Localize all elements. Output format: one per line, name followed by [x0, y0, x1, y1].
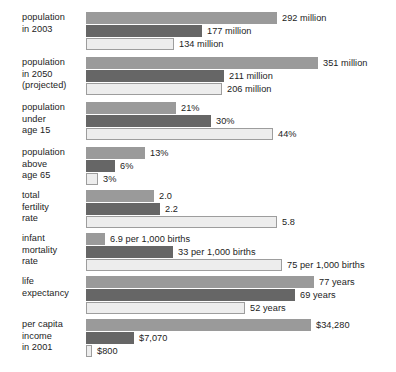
bar-group-label-line: under: [22, 114, 84, 126]
bar-group-label: lifeexpectancy: [22, 276, 84, 299]
bar: [86, 147, 145, 159]
bar-row: 211 million: [86, 70, 396, 82]
bar-group-label-line: mortality: [22, 245, 84, 257]
bar: [86, 115, 211, 127]
bar-group-label: populationin 2050(projected): [22, 57, 84, 92]
bar-value-label: 75 per 1,000 births: [287, 259, 365, 271]
bar-group-bars: 2.02.25.8: [86, 190, 396, 229]
bar-row: $34,280: [86, 319, 396, 331]
bar-group-bars: 21%30%44%: [86, 102, 396, 141]
bar-row: $7,070: [86, 332, 396, 344]
bar: [86, 57, 318, 69]
bar-group-label: totalfertilityrate: [22, 190, 84, 225]
bar-value-label: 6.9 per 1,000 births: [110, 233, 190, 245]
bar-group-label-line: infant: [22, 233, 84, 245]
bar-row: 77 years: [86, 276, 396, 288]
bar-group-label-line: income: [22, 331, 84, 343]
bar-group-label-line: population: [22, 57, 84, 69]
bar-value-label: $800: [97, 345, 118, 357]
bar: [86, 190, 154, 202]
bar: [86, 276, 314, 288]
bar-row: 292 million: [86, 12, 396, 24]
bar-group-label-line: in 2003: [22, 24, 84, 36]
bar: [86, 345, 92, 357]
bar-row: 3%: [86, 173, 396, 185]
bar-value-label: 206 million: [227, 83, 271, 95]
bar-row: 134 million: [86, 38, 396, 50]
bar-group-bars: 292 million177 million134 million: [86, 12, 396, 51]
bar-row: 21%: [86, 102, 396, 114]
bar-group-label: populationunderage 15: [22, 102, 84, 137]
bar-group-label-line: rate: [22, 256, 84, 268]
bar-value-label: 33 per 1,000 births: [178, 246, 256, 258]
bar-row: 13%: [86, 147, 396, 159]
bar-value-label: 2.2: [165, 203, 178, 215]
bar-value-label: 134 million: [179, 38, 223, 50]
bar-row: 33 per 1,000 births: [86, 246, 396, 258]
bar: [86, 25, 202, 37]
bar-group-bars: $34,280$7,070$800: [86, 319, 396, 358]
bar-group-label-line: total: [22, 190, 84, 202]
bar-group-label-line: in 2050: [22, 69, 84, 81]
bar-group-label: infantmortalityrate: [22, 233, 84, 268]
bar: [86, 128, 273, 140]
bar-value-label: $7,070: [139, 332, 167, 344]
bar-value-label: 77 years: [319, 276, 355, 288]
bar-value-label: 52 years: [250, 302, 286, 314]
bar: [86, 302, 245, 314]
bar: [86, 160, 115, 172]
bar-value-label: 69 years: [300, 289, 336, 301]
bar-group-label-line: population: [22, 12, 84, 24]
bar-group-label-line: expectancy: [22, 288, 84, 300]
bar: [86, 259, 282, 271]
bar-group-label-line: in 2001: [22, 342, 84, 354]
bar-group-label-line: population: [22, 102, 84, 114]
bar-value-label: 30%: [216, 115, 235, 127]
bar-value-label: 6%: [120, 160, 133, 172]
bar-group-bars: 77 years69 years52 years: [86, 276, 396, 315]
bar: [86, 173, 98, 185]
bar-value-label: 292 million: [282, 12, 326, 24]
bar-value-label: 351 million: [323, 57, 367, 69]
bar: [86, 332, 134, 344]
bar-group-label-line: age 15: [22, 125, 84, 137]
bar-value-label: 44%: [278, 128, 297, 140]
bar-row: 52 years: [86, 302, 396, 314]
bar: [86, 289, 295, 301]
bar-row: 6%: [86, 160, 396, 172]
bar: [86, 233, 105, 245]
bar-group-label-line: per capita: [22, 319, 84, 331]
bar-group-label-line: life: [22, 276, 84, 288]
bar-value-label: 5.8: [282, 216, 295, 228]
bar-group-bars: 351 million211 million206 million: [86, 57, 396, 96]
grouped-bar-chart: populationin 2003292 million177 million1…: [0, 0, 396, 372]
bar: [86, 83, 222, 95]
bar-row: 206 million: [86, 83, 396, 95]
bar-row: 44%: [86, 128, 396, 140]
bar: [86, 12, 277, 24]
bar-row: 75 per 1,000 births: [86, 259, 396, 271]
bar-value-label: 177 million: [207, 25, 251, 37]
bar-row: 2.0: [86, 190, 396, 202]
bar-value-label: 3%: [103, 173, 116, 185]
bar-value-label: 2.0: [159, 190, 172, 202]
bar-group-label-line: fertility: [22, 202, 84, 214]
bar: [86, 216, 277, 228]
bar-value-label: $34,280: [316, 319, 350, 331]
bar: [86, 246, 173, 258]
bar-row: 69 years: [86, 289, 396, 301]
bar-value-label: 13%: [150, 147, 169, 159]
bar-value-label: 211 million: [229, 70, 273, 82]
bar: [86, 70, 224, 82]
bar-group-bars: 6.9 per 1,000 births33 per 1,000 births7…: [86, 233, 396, 272]
bar-group-label-line: age 65: [22, 170, 84, 182]
bar-group-label: per capitaincomein 2001: [22, 319, 84, 354]
bar: [86, 102, 176, 114]
bar-group-label: populationaboveage 65: [22, 147, 84, 182]
bar-group-label-line: rate: [22, 213, 84, 225]
bar: [86, 38, 174, 50]
bar-row: 2.2: [86, 203, 396, 215]
bar-row: $800: [86, 345, 396, 357]
bar-row: 177 million: [86, 25, 396, 37]
bar-row: 6.9 per 1,000 births: [86, 233, 396, 245]
